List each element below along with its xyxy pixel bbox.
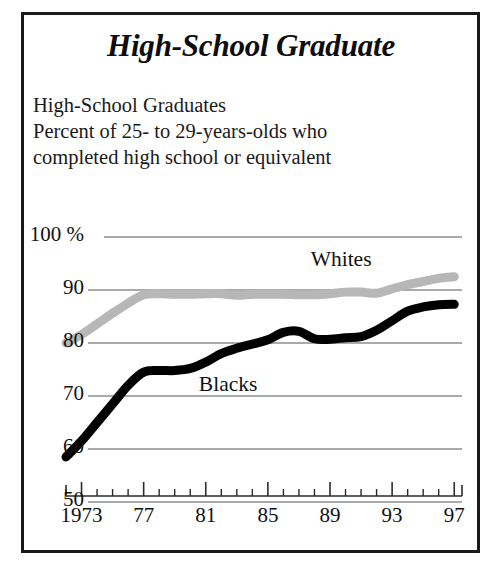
y-tick-label-90: 90 [63, 275, 84, 300]
series-lines [66, 277, 454, 457]
y-tick-label-70: 70 [63, 381, 84, 406]
series-label-whites: Whites [311, 247, 372, 272]
series-label-blacks: Blacks [199, 372, 258, 397]
x-axis-ticks [66, 482, 462, 496]
y-tick-label-60: 60 [63, 434, 84, 459]
x-tick-label-97: 97 [414, 503, 494, 528]
chart-figure: High-School Graduate High-School Graduat… [0, 0, 502, 570]
y-tick-label-80: 80 [63, 328, 84, 353]
y-tick-label-100: 100 % [30, 222, 84, 247]
